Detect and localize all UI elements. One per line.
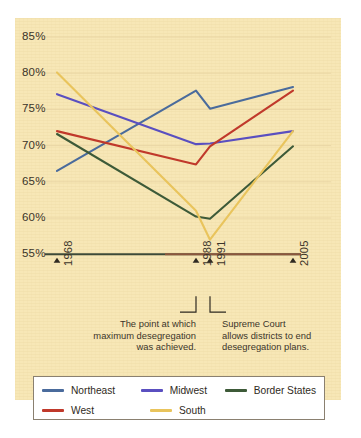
legend-swatch-west: [42, 409, 64, 412]
y-tick-label-80: 80%: [22, 66, 46, 78]
legend-swatch-northeast: [42, 389, 64, 392]
y-tick-label-70: 70%: [22, 139, 46, 151]
legend-item-northeast[interactable]: Northeast: [42, 385, 141, 396]
legend-item-south[interactable]: South: [150, 405, 242, 416]
y-tick-label-60: 60%: [22, 211, 46, 223]
x-tick-label-2005: 2005: [298, 241, 310, 267]
legend-item-midwest[interactable]: Midwest: [141, 385, 225, 396]
x-tick-label-1988: 1988: [201, 241, 213, 267]
legend-item-border-states[interactable]: Border States: [225, 385, 316, 396]
legend-label-northeast: Northeast: [71, 385, 115, 396]
y-tick-label-65: 65%: [22, 175, 46, 187]
x-tick-marker-2005: [290, 258, 297, 263]
legend-label-south: South: [179, 405, 206, 416]
chart-page: 85%80%75%70%65%60%55% 1968198819912005 T…: [0, 0, 361, 438]
legend-row-2: West South: [42, 403, 316, 418]
legend-item-west[interactable]: West: [42, 405, 150, 416]
legend-swatch-border-states: [225, 389, 247, 392]
legend-label-midwest: Midwest: [170, 385, 207, 396]
annotation-supreme-court: Supreme Court allows districts to end de…: [222, 318, 342, 353]
y-tick-label-75: 75%: [22, 102, 46, 114]
y-tick-label-55: 55%: [22, 247, 46, 259]
x-tick-marker-1968: [54, 258, 61, 263]
legend-row-1: Northeast Midwest Border States: [42, 383, 316, 398]
x-tick-label-1991: 1991: [215, 241, 227, 267]
x-tick-label-1968: 1968: [62, 241, 74, 267]
legend-swatch-south: [150, 409, 172, 412]
legend-swatch-midwest: [141, 389, 163, 392]
x-tick-marker-1988: [193, 258, 200, 263]
legend-label-west: West: [71, 405, 94, 416]
y-tick-label-85: 85%: [22, 30, 46, 42]
annotation-max-desegregation: The point at which maximum desegregation…: [64, 318, 196, 353]
chart-legend: Northeast Midwest Border States West Sou…: [33, 376, 325, 420]
legend-label-border-states: Border States: [254, 385, 316, 396]
